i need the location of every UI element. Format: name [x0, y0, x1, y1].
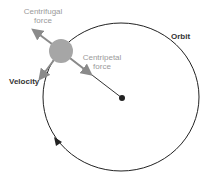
center-point: [119, 95, 125, 101]
velocity-label: Velocity: [9, 77, 39, 86]
orbit-diagram: [0, 0, 212, 183]
orbit-label: Orbit: [171, 32, 190, 41]
centrifugal-label: Centrifugal force: [18, 7, 68, 25]
centripetal-label: Centripetal force: [82, 53, 122, 71]
velocity-arrow: [42, 60, 54, 76]
orbiting-object: [49, 39, 73, 63]
